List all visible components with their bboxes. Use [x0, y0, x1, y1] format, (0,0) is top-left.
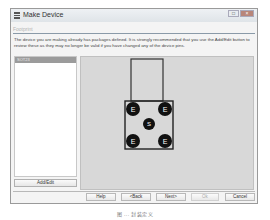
- pad-top-right-icon: E: [158, 102, 172, 116]
- help-button[interactable]: Help: [86, 193, 116, 201]
- ok-button[interactable]: Ok: [191, 193, 219, 201]
- device-body-outline: [131, 59, 163, 101]
- package-list-item[interactable]: SOT23: [15, 57, 76, 63]
- figure-caption: 图 ... 封装定义: [0, 210, 270, 217]
- svg-text:E: E: [131, 138, 136, 145]
- title-bar[interactable]: Make Device □ ×: [11, 9, 257, 22]
- subheading-divider: [13, 33, 255, 34]
- svg-text:E: E: [131, 106, 136, 113]
- warning-description: The device you are making already has pa…: [14, 37, 253, 49]
- next-button[interactable]: Next>: [156, 193, 186, 201]
- cancel-button[interactable]: Cancel: [225, 193, 255, 201]
- svg-text:S: S: [147, 121, 151, 127]
- package-list[interactable]: SOT23: [14, 56, 77, 177]
- app-icon: [14, 12, 20, 19]
- help-window-button[interactable]: □: [228, 10, 239, 17]
- footprint-diagram: E E S E E: [81, 57, 253, 189]
- button-row-divider: [13, 191, 255, 192]
- pad-bottom-right-icon: E: [158, 134, 172, 148]
- svg-text:E: E: [163, 138, 168, 145]
- close-window-button[interactable]: ×: [240, 10, 254, 17]
- svg-text:E: E: [163, 106, 168, 113]
- back-button[interactable]: <Back: [121, 193, 151, 201]
- pad-bottom-left-icon: E: [126, 134, 140, 148]
- make-device-dialog: Make Device □ × Footprint The device you…: [10, 8, 258, 204]
- add-edit-button[interactable]: Add/Edit: [14, 179, 77, 187]
- footprint-subheading: Footprint: [13, 26, 33, 32]
- window-title: Make Device: [23, 11, 63, 18]
- pad-top-left-icon: E: [126, 102, 140, 116]
- footprint-preview: E E S E E: [80, 56, 254, 190]
- pad-center-icon: S: [143, 118, 155, 130]
